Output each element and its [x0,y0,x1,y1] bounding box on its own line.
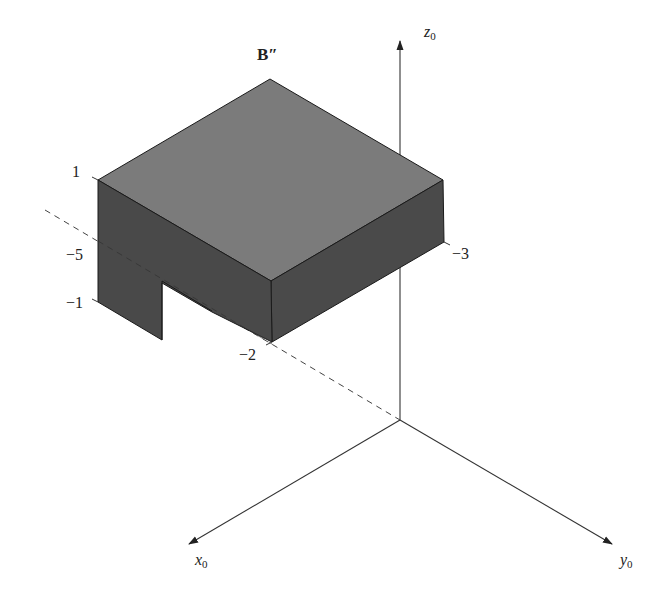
tick-left-bottom [92,299,98,302]
tick-label-left-mid: −5 [66,247,83,263]
tick-label-left-bottom: −1 [66,295,83,311]
tick-label-left-top: 1 [72,164,80,180]
y-axis [400,420,612,544]
x-axis-subscript: 0 [202,558,208,570]
y-axis-subscript: 0 [627,558,633,570]
tick-label-right: −3 [452,246,469,262]
x-axis-label: x0 [195,552,208,570]
tick-left-top [92,177,98,180]
z-axis-subscript: 0 [430,30,436,42]
tick-right [444,242,450,245]
solid-b-double-prime [92,79,450,345]
x-axis [189,420,400,544]
solid-label: B″ [257,46,278,63]
y-axis-label: y0 [620,552,633,570]
isometric-diagram [0,0,670,596]
tick-label-front-bottom: −2 [239,347,256,363]
z-axis-label: z0 [424,24,436,42]
